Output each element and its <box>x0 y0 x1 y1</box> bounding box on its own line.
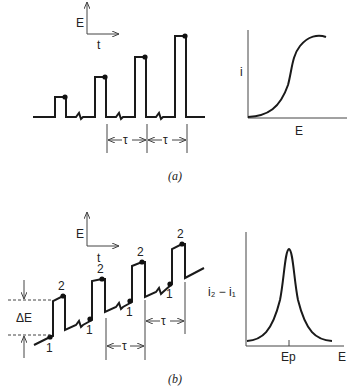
delta-e-label: ΔE <box>16 311 32 325</box>
sample-label-2: 2 <box>137 245 144 259</box>
caption-b: (b) <box>168 372 182 386</box>
axes-inset-b: E t <box>76 212 119 265</box>
figure-canvas: E t τ τ i E (a) <box>0 0 352 391</box>
response-plot-a: i E <box>240 30 347 138</box>
sample-label-2: 2 <box>58 279 65 293</box>
sample-label-2: 2 <box>97 262 104 276</box>
panel-b: E t 1 2 1 2 1 2 1 2 ΔE <box>8 212 346 386</box>
panel-a: E t τ τ i E (a) <box>33 2 347 183</box>
tau-label: τ <box>123 133 128 147</box>
sample-label-1: 1 <box>86 323 93 337</box>
caption-a: (a) <box>168 169 182 183</box>
axis-label-e: E <box>295 124 303 138</box>
pulse-waveform-a <box>33 33 205 119</box>
sample-label-2: 2 <box>177 227 184 241</box>
axis-label-e: E <box>76 16 84 30</box>
axis-label-t: t <box>97 38 101 52</box>
pulse-voltammetry-figure: E t τ τ i E (a) <box>0 0 352 391</box>
axis-label-e: E <box>76 227 84 241</box>
axis-label-i2-minus-i1: i₂ − i₁ <box>208 285 236 299</box>
tau-label: τ <box>122 339 127 353</box>
axis-label-i: i <box>240 65 243 79</box>
tau-label: τ <box>161 314 166 328</box>
tau-label: τ <box>163 133 168 147</box>
period-markers-a: τ τ <box>107 124 187 153</box>
sample-label-1: 1 <box>126 305 133 319</box>
axis-label-e: E <box>338 350 346 364</box>
axes-inset-a: E t <box>76 2 119 52</box>
sample-label-1: 1 <box>46 341 53 355</box>
response-plot-b: i₂ − i₁ Ep E <box>208 232 346 364</box>
sample-label-1: 1 <box>166 287 173 301</box>
peak-label-ep: Ep <box>281 350 296 364</box>
